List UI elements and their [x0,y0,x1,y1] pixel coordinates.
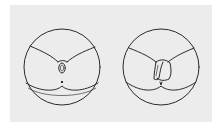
left-view-upper-right-contour [67,47,95,62]
right-view-lower-contour [126,82,196,90]
right-view-upper-right-contour [168,48,194,62]
left-view-circle [24,29,100,105]
right-circular-view [123,29,199,105]
left-view-upper-left-contour [30,46,58,62]
right-view-feature-line [156,65,158,76]
left-view-dot [61,81,63,83]
left-circular-view [24,29,100,105]
left-view-center-feature [59,63,65,73]
right-view-upper-left-contour [129,48,156,62]
left-view-center-fold [58,61,67,63]
right-view-protruding-feature [156,60,171,81]
right-view-feature-left-fold [154,62,163,80]
left-view-lower-contour [26,83,98,90]
left-view-center-feature-inner [60,65,63,71]
right-view-mark [160,82,162,85]
illustration-canvas [0,0,218,129]
